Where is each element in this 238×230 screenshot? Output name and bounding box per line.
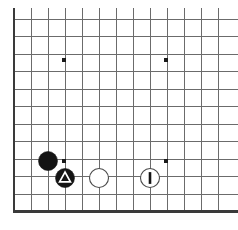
board-canvas [0, 0, 238, 230]
board-background [0, 0, 238, 230]
star-point-lower-right [164, 159, 169, 164]
black-stone-plain [39, 152, 58, 171]
go-board-diagram [0, 0, 238, 230]
white-stone-body [90, 169, 109, 188]
white-stone-plain [90, 169, 109, 188]
black-stone-body [39, 152, 58, 171]
white-stone-bar [141, 169, 160, 188]
star-point-lower-left [62, 159, 67, 164]
star-point-upper-right [164, 58, 169, 63]
star-point-upper-left [62, 58, 67, 63]
black-stone-triangle [56, 169, 75, 188]
